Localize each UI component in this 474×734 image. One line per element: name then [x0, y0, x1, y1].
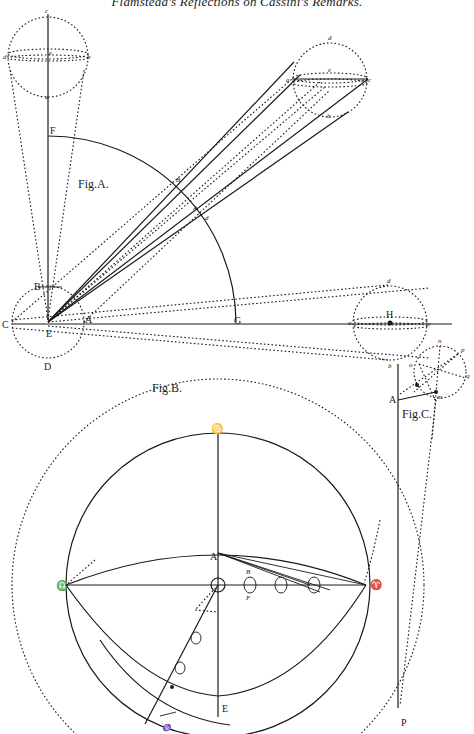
- label-C: C: [2, 319, 9, 330]
- fig-b-caption: Fig.B.: [152, 381, 182, 395]
- label-c-upper: c: [368, 76, 372, 84]
- label-d-right: d: [387, 277, 391, 285]
- fig-a-caption: Fig.A.: [78, 177, 109, 191]
- astronomical-plate: c d b a e F Fig.A. B C E D A G: [0, 0, 474, 734]
- label-A-figb: A: [210, 551, 218, 562]
- label-G: G: [234, 315, 241, 326]
- label-F: F: [50, 125, 56, 136]
- upper-right-sphere: d e a c b: [286, 34, 372, 120]
- cancer-symbol: ♋: [211, 422, 223, 435]
- fig-c-caption: Fig.C.: [402, 407, 432, 421]
- label-e: e: [49, 49, 52, 57]
- fig-b: Fig.B. ♋ ♎ ♈ E A B F: [12, 379, 424, 734]
- label-d-upper: d: [328, 34, 332, 42]
- label-p: p: [460, 346, 465, 354]
- label-F-figb: F: [245, 594, 251, 602]
- arc-mark-B: B: [176, 176, 181, 184]
- label-E-figb: E: [222, 703, 228, 714]
- label-B-figb: B: [246, 568, 251, 576]
- top-sphere: c d b a e: [3, 7, 91, 320]
- label-e-upper: e: [328, 66, 331, 74]
- label-B: B: [34, 281, 41, 292]
- aries-symbol: ♈: [370, 578, 382, 591]
- label-b-upper: b: [327, 112, 331, 120]
- label-n: n: [438, 337, 442, 345]
- capricorn-symbol: ♑: [162, 723, 172, 732]
- label-c: c: [45, 7, 49, 15]
- label-b: b: [87, 53, 91, 61]
- fig-c: n p o q m A Fig.C. P: [389, 337, 470, 728]
- arc-mark-A: A: [192, 204, 198, 212]
- label-d: d: [3, 53, 7, 61]
- label-a-right: a: [348, 319, 352, 327]
- fig-a: c d b a e F Fig.A. B C E D A G: [2, 7, 452, 372]
- label-P: P: [401, 717, 407, 728]
- label-D: D: [44, 361, 51, 372]
- label-m: m: [437, 393, 442, 401]
- label-A-figc: A: [389, 394, 397, 405]
- label-E: E: [46, 328, 52, 339]
- label-o: o: [409, 361, 413, 369]
- arc-mark-d: d: [205, 214, 209, 222]
- label-a: a: [45, 93, 49, 101]
- label-A: A: [85, 314, 93, 325]
- label-q: q: [466, 372, 470, 380]
- label-b-right: b: [388, 362, 392, 370]
- label-H: H: [386, 309, 393, 320]
